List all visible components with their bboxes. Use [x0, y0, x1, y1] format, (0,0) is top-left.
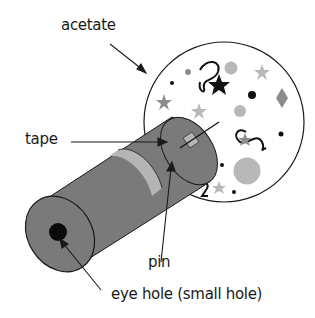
label-acetate: acetate: [61, 16, 116, 34]
kaleidoscope-diagram: acetate tape pin eye hole (small hole): [0, 0, 315, 318]
eye-hole: [49, 223, 67, 241]
label-eye-hole: eye hole (small hole): [111, 285, 262, 303]
label-pin: pin: [148, 253, 170, 271]
label-tape: tape: [25, 130, 58, 148]
